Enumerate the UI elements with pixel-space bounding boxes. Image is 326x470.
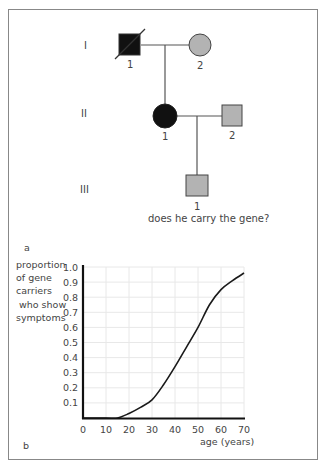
x-tick-label: 0 [80,424,86,435]
x-axis-label: age (years) [200,436,254,447]
x-tick-label: 60 [215,424,227,435]
individual-II-2-unaffected-male [222,105,242,126]
y-tick-label: 0.3 [63,367,78,378]
figure-canvas: I II III 1 2 1 2 1 does he carry the gen… [0,0,326,470]
y-tick-label: 0.9 [63,277,78,288]
panel-a-label: a [24,242,30,253]
generation-label-I: I [84,40,87,51]
x-tick-label: 20 [123,424,135,435]
y-tick-label: 0.6 [63,322,78,333]
id-label: 2 [229,130,235,141]
y-tick-label: 0.1 [63,397,78,408]
pedigree-chart: I II III 1 2 1 2 1 does he carry the gen… [24,29,269,253]
id-label: 1 [127,59,133,70]
id-label: 1 [194,201,200,212]
y-axis-label: proportion of gene carriers who show sym… [16,259,69,323]
penetrance-chart: 0.10.20.30.40.50.60.70.80.91.0 010203040… [16,259,254,451]
x-tick-label: 70 [238,424,250,435]
pedigree-question: does he carry the gene? [148,213,269,224]
x-tick-label: 50 [192,424,204,435]
x-tick-label: 10 [100,424,112,435]
chart-grid [83,267,244,418]
penetrance-curve [83,273,244,418]
y-axis-ticks: 0.10.20.30.40.50.60.70.80.91.0 [63,262,78,409]
x-tick-label: 30 [146,424,158,435]
x-tick-label: 40 [169,424,181,435]
individual-I-2-unaffected-female [189,34,211,56]
id-label: 1 [162,131,168,142]
y-tick-label: 0.5 [63,337,78,348]
individual-II-1-affected-female [153,104,177,128]
generation-label-III: III [80,184,89,195]
individual-III-1-unknown-male [186,175,208,196]
panel-b-label: b [23,440,29,451]
generation-label-II: II [81,108,87,119]
x-axis-ticks: 010203040506070 [80,424,250,435]
y-tick-label: 0.4 [63,352,78,363]
y-tick-label: 0.2 [63,382,78,393]
id-label: 2 [197,60,203,71]
